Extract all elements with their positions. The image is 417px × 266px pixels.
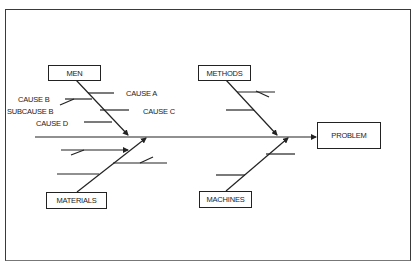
methods-bone <box>226 80 277 135</box>
materials-bone <box>77 138 146 192</box>
materials-subcause-1 <box>71 150 84 155</box>
problem-label: PROBLEM <box>331 131 366 140</box>
men-bone <box>76 80 128 135</box>
category-label-men: MEN <box>66 69 82 78</box>
category-box-materials: MATERIALS <box>46 192 107 209</box>
cause-b-label: CAUSE B <box>18 95 50 104</box>
subcause-b-line <box>60 99 74 105</box>
category-box-men: MEN <box>48 65 101 81</box>
machines-bone <box>226 138 288 191</box>
cause-a-label: CAUSE A <box>126 89 157 98</box>
cause-c-label: CAUSE C <box>143 107 175 116</box>
problem-box: PROBLEM <box>317 122 381 149</box>
materials-subcause-2 <box>140 157 153 163</box>
subcause-b-label: SUBCAUSE B <box>7 107 53 116</box>
category-label-machines: MACHINES <box>207 195 245 204</box>
category-label-materials: MATERIALS <box>56 196 96 205</box>
cause-d-label: CAUSE D <box>36 119 68 128</box>
category-label-methods: METHODS <box>206 69 242 78</box>
category-box-methods: METHODS <box>198 65 251 81</box>
category-box-machines: MACHINES <box>199 191 252 208</box>
fishbone-diagram: MEN METHODS MATERIALS MACHINES PROBLEM C… <box>0 0 417 266</box>
